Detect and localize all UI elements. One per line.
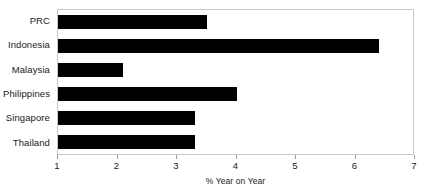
bar-chart: PRCIndonesiaMalaysiaPhilippinesSingapore… bbox=[0, 0, 427, 195]
bar bbox=[58, 87, 237, 101]
bar bbox=[58, 63, 123, 77]
bar-row bbox=[58, 134, 413, 150]
category-label: Thailand bbox=[13, 138, 53, 148]
x-tick-label: 5 bbox=[292, 160, 297, 171]
x-tick-mark bbox=[57, 155, 58, 159]
bar-row bbox=[58, 62, 413, 78]
bar bbox=[58, 39, 379, 53]
x-axis-title: % Year on Year bbox=[57, 176, 414, 186]
x-tick-label: 6 bbox=[352, 160, 357, 171]
category-label: PRC bbox=[30, 16, 53, 26]
bar bbox=[58, 111, 195, 125]
category-axis: PRCIndonesiaMalaysiaPhilippinesSingapore… bbox=[0, 9, 53, 155]
x-tick-label: 2 bbox=[114, 160, 119, 171]
bar-row bbox=[58, 86, 413, 102]
x-tick-label: 4 bbox=[233, 160, 238, 171]
plot-area bbox=[57, 9, 414, 155]
category-label: Singapore bbox=[6, 113, 53, 123]
x-tick-label: 3 bbox=[173, 160, 178, 171]
x-tick-mark bbox=[355, 155, 356, 159]
bar bbox=[58, 15, 207, 29]
category-label: Philippines bbox=[3, 89, 53, 99]
x-tick-mark bbox=[236, 155, 237, 159]
x-tick-label: 1 bbox=[54, 160, 59, 171]
x-tick-mark bbox=[117, 155, 118, 159]
x-tick-mark bbox=[414, 155, 415, 159]
bar-row bbox=[58, 14, 413, 30]
bar bbox=[58, 135, 195, 149]
bars-layer bbox=[58, 10, 413, 154]
bar-row bbox=[58, 110, 413, 126]
x-tick-label: 7 bbox=[411, 160, 416, 171]
x-tick-mark bbox=[295, 155, 296, 159]
category-label: Indonesia bbox=[8, 40, 53, 50]
bar-row bbox=[58, 38, 413, 54]
category-label: Malaysia bbox=[12, 65, 53, 75]
x-tick-mark bbox=[176, 155, 177, 159]
